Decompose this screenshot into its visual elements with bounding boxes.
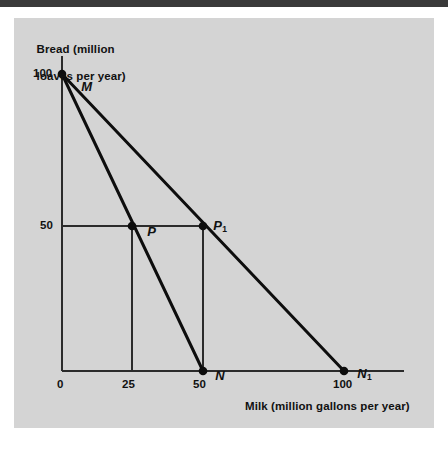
point-label-N: N [208, 353, 225, 384]
point-label-P1-subscript: 1 [222, 224, 227, 234]
y-tick-label-50: 50 [40, 219, 53, 233]
point-label-M-text: M [81, 79, 92, 94]
point-label-N1: N1 [350, 351, 371, 382]
x-tick-label-50: 50 [193, 378, 206, 392]
point-label-P1: P1 [206, 203, 227, 234]
point-label-N-text: N [215, 368, 224, 383]
point-label-P: P [140, 209, 156, 240]
x-tick-label-25: 25 [122, 378, 135, 392]
y-axis-title-line1: Bread (million [37, 43, 115, 55]
point-label-N1-subscript: 1 [367, 372, 372, 382]
point-label-M: M [74, 64, 92, 95]
point-label-N1-text: N [357, 366, 366, 381]
x-tick-label-0: 0 [57, 378, 63, 392]
point-label-P-text: P [147, 224, 156, 239]
point-label-P1-text: P [213, 218, 222, 233]
x-axis-title: Milk (million gallons per year) [245, 400, 410, 414]
scan-edge-bar [0, 0, 448, 7]
y-tick-label-100: 100 [33, 67, 52, 81]
